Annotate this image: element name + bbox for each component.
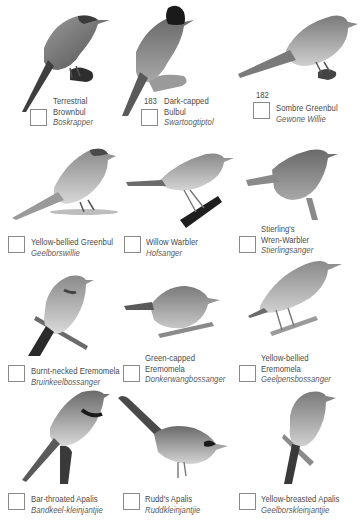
species-label: Rudd's Apalis Ruddkleinjantjie — [145, 494, 200, 515]
english-name: Burnt-necked Eremomela — [31, 366, 120, 377]
checkbox-yellow-bellied-eremomela[interactable] — [239, 365, 256, 382]
bird-greenbul-icon — [236, 10, 362, 86]
species-number: 183 — [144, 96, 157, 106]
english-name: Yellow-breasted Apalis — [261, 494, 340, 505]
species-label: Green-capped Eremomela Donkerwangbossang… — [145, 353, 225, 385]
species-label: Willow Warbler Hofsanger — [146, 237, 198, 258]
bird-apalis-icon — [280, 388, 336, 486]
checkbox-green-capped-eremomela[interactable] — [123, 365, 140, 382]
species-label: Dark-capped Bulbul Swartoogtiptol — [164, 96, 214, 128]
checkbox-stierlings-wren-warbler[interactable] — [239, 236, 256, 253]
species-label: Stierling's Wren-Warbler Stierlingsanger — [261, 224, 313, 256]
afrikaans-name: Bandkeel-kleinjantjie — [31, 505, 103, 516]
species-label: Yellow-breasted Apalis Geelborskleinjant… — [261, 494, 340, 515]
species-number: 182 — [256, 90, 269, 100]
english-name: Yellow-bellied Greenbul — [31, 237, 113, 248]
checkbox-yellow-breasted-apalis[interactable] — [239, 493, 256, 510]
checkbox-yellow-bellied-greenbul[interactable] — [8, 236, 25, 253]
english-name-line1: Terrestrial — [53, 96, 93, 107]
english-name-line1: Yellow-bellied — [261, 353, 331, 364]
checkbox-willow-warbler[interactable] — [124, 236, 141, 253]
afrikaans-name: Geelborswillie — [31, 248, 113, 259]
checkbox-sombre-greenbul[interactable] — [253, 102, 270, 119]
english-name-line2: Wren-Warbler — [261, 235, 313, 246]
species-label: Yellow-bellied Eremomela Geelpensbossang… — [261, 353, 331, 385]
english-name-line2: Eremomela — [145, 364, 225, 375]
checkbox-bar-throated-apalis[interactable] — [8, 493, 25, 510]
english-name-line2: Brownbul — [53, 107, 93, 118]
afrikaans-name: Donkerwangbossanger — [145, 374, 225, 385]
english-name-line2: Bulbul — [164, 107, 214, 118]
checkbox-terrestrial-brownbul[interactable] — [30, 109, 47, 126]
english-name: Rudd's Apalis — [145, 494, 200, 505]
bird-eremomela-icon — [246, 256, 346, 340]
afrikaans-name: Hofsanger — [146, 248, 198, 259]
english-name-line1: Green-capped — [145, 353, 225, 364]
checkbox-dark-capped-bulbul[interactable] — [141, 109, 158, 126]
afrikaans-name: Ruddkleinjantjie — [145, 505, 200, 516]
bird-eremomela-icon — [26, 272, 96, 358]
species-label: Bar-throated Apalis Bandkeel-kleinjantji… — [31, 494, 103, 515]
afrikaans-name: Boskrapper — [53, 117, 93, 128]
english-name-line2: Eremomela — [261, 364, 331, 375]
afrikaans-name: Geelborskleinjantjie — [261, 505, 340, 516]
afrikaans-name: Swartoogtiptol — [164, 117, 214, 128]
bird-eremomela-icon — [124, 282, 224, 342]
afrikaans-name: Geelpensbossanger — [261, 374, 331, 385]
english-name: Willow Warbler — [146, 237, 198, 248]
checkbox-burnt-necked-eremomela[interactable] — [8, 365, 25, 382]
checkbox-rudds-apalis[interactable] — [123, 493, 140, 510]
species-label: Burnt-necked Eremomela Bruinkeelbossange… — [31, 366, 120, 387]
species-label: Sombre Greenbul Gewone Willie — [276, 103, 338, 124]
english-name-line1: Stierling's — [261, 224, 313, 235]
afrikaans-name: Gewone Willie — [276, 114, 338, 125]
bird-apalis-icon — [20, 388, 110, 486]
afrikaans-name: Bruinkeelbossanger — [31, 377, 120, 388]
bird-wren-warbler-icon — [246, 148, 338, 224]
english-name-line1: Dark-capped — [164, 96, 214, 107]
species-label: Terrestrial Brownbul Boskrapper — [53, 96, 93, 128]
bird-warbler-icon — [126, 150, 234, 230]
afrikaans-name: Stierlingsanger — [261, 245, 313, 256]
english-name: Bar-throated Apalis — [31, 494, 103, 505]
bird-greenbul-icon — [10, 144, 118, 220]
bird-apalis-icon — [118, 394, 232, 480]
species-label: Yellow-bellied Greenbul Geelborswillie — [31, 237, 113, 258]
english-name: Sombre Greenbul — [276, 103, 338, 114]
